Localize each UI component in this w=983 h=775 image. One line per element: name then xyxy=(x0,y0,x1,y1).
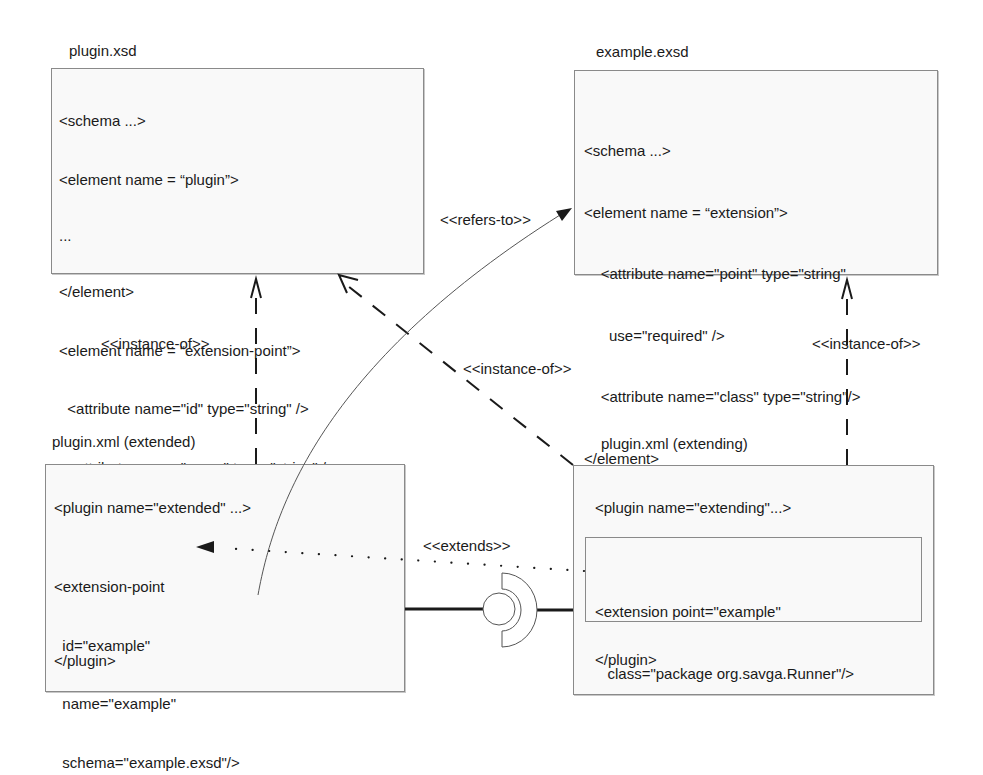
plugin-close-tag: </plugin> xyxy=(595,650,657,670)
plugin-close-tag: </plugin> xyxy=(54,651,116,671)
code-line: <schema ...> xyxy=(584,141,860,162)
plugin-xsd-title: plugin.xsd xyxy=(69,42,137,59)
code-line: <attribute name="class" type="string"/> xyxy=(584,387,860,408)
plugin-xml-extended-title: plugin.xml (extended) xyxy=(52,433,195,450)
code-line: <attribute name="point" type="string" xyxy=(584,264,860,285)
instance-of-diagonal-label: <<instance-of>> xyxy=(463,360,571,377)
extension-declaration: <extension point="example" class="packag… xyxy=(595,561,854,725)
plugin-xml-extended-box: <plugin name="extended" ...> <extension-… xyxy=(45,464,405,692)
plugin-open-tag: <plugin name="extending"...> xyxy=(595,498,791,518)
plugin-xml-extending-title: plugin.xml (extending) xyxy=(601,435,748,452)
code-line: <element name = “extension”> xyxy=(584,203,860,224)
extends-label: <<extends>> xyxy=(423,537,511,554)
code-line: name="example" xyxy=(54,694,240,714)
example-exsd-box: <schema ...> <element name = “extension”… xyxy=(574,70,938,275)
extension-box: <extension point="example" class="packag… xyxy=(585,537,922,622)
plugin-xsd-box: <schema ...> <element name = “plugin”> .… xyxy=(51,68,424,274)
example-exsd-title: example.exsd xyxy=(596,43,689,60)
code-line: ... xyxy=(59,228,350,243)
ball-socket-connector xyxy=(405,573,573,647)
instance-of-left-label: <<instance-of>> xyxy=(101,335,209,352)
code-line: <element name = “plugin”> xyxy=(59,170,350,190)
code-line: <schema ...> xyxy=(59,111,350,131)
code-line: <attribute name="id" type="string" /> xyxy=(59,399,350,419)
plugin-xml-extending-box: <plugin name="extending"...> <extension … xyxy=(573,465,934,695)
plugin-open-tag: <plugin name="extended" ...> xyxy=(54,498,251,518)
code-line: schema="example.exsd"/> xyxy=(54,753,240,773)
code-line: <extension point="example" xyxy=(595,602,854,623)
code-line: <extension-point xyxy=(54,577,240,597)
instance-of-right-label: <<instance-of>> xyxy=(812,335,920,352)
refers-to-label: <<refers-to>> xyxy=(440,211,531,228)
code-line: </element> xyxy=(59,282,350,302)
